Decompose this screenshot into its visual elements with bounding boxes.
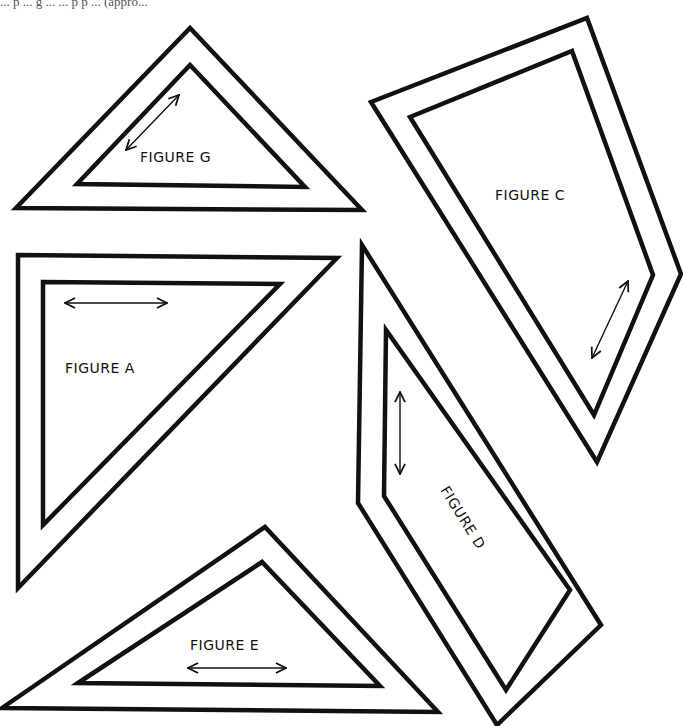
- figure-d-inner-seam-line: [384, 330, 570, 690]
- figure-c-outer-cut-line: [371, 18, 681, 462]
- figure-label: FIGURE E: [190, 637, 259, 653]
- figure-a-inner-seam-line: [43, 282, 280, 525]
- figure-c: FIGURE C: [371, 18, 681, 462]
- figure-a: FIGURE A: [18, 255, 337, 588]
- figure-e: FIGURE E: [2, 527, 438, 712]
- figure-g-outer-cut-line: [16, 28, 362, 210]
- figure-label: FIGURE G: [140, 149, 211, 165]
- figure-d: FIGURE D: [358, 245, 601, 725]
- figure-label: FIGURE D: [437, 483, 488, 552]
- figure-label: FIGURE C: [495, 187, 565, 203]
- figure-a-outer-cut-line: [18, 255, 337, 588]
- figure-d-outer-cut-line: [358, 245, 601, 725]
- figure-g: FIGURE G: [16, 28, 362, 210]
- figure-g-inner-seam-line: [77, 65, 305, 187]
- pattern-pieces-diagram: FIGURE GFIGURE CFIGURE AFIGURE DFIGURE E: [0, 0, 683, 726]
- figure-label: FIGURE A: [65, 360, 135, 376]
